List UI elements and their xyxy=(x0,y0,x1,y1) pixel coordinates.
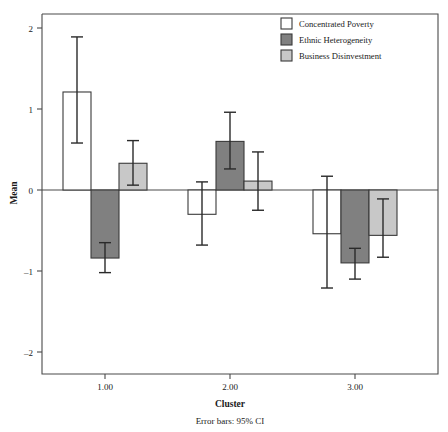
chart-container: 2 1 0 –1 –2 Mean xyxy=(0,0,448,432)
y-tick-label-2: 2 xyxy=(29,24,34,34)
x-tick-label-2: 2.00 xyxy=(222,382,238,392)
x-tick-label-3: 3.00 xyxy=(347,382,363,392)
legend-swatch-ethnic-heterogeneity xyxy=(281,34,292,45)
legend-label-ethnic-heterogeneity: Ethnic Heterogeneity xyxy=(299,35,373,45)
x-axis: 1.00 2.00 3.00 Cluster xyxy=(97,374,363,409)
y-tick-label-1: 1 xyxy=(29,105,34,115)
bar-group-cluster-3 xyxy=(313,176,397,288)
bar-group-cluster-2 xyxy=(188,112,272,245)
bar-group-cluster-1 xyxy=(63,37,147,273)
legend-swatch-business-disinvestment xyxy=(281,50,292,61)
y-tick-label-minus2: –2 xyxy=(23,348,33,358)
y-tick-label-0: 0 xyxy=(29,186,34,196)
error-bars-footnote: Error bars: 95% CI xyxy=(196,416,265,426)
legend: Concentrated Poverty Ethnic Heterogeneit… xyxy=(281,18,382,61)
x-axis-title: Cluster xyxy=(215,399,246,409)
y-axis: 2 1 0 –1 –2 Mean xyxy=(9,24,42,358)
y-axis-title: Mean xyxy=(9,181,19,205)
legend-swatch-concentrated-poverty xyxy=(281,18,292,29)
legend-label-concentrated-poverty: Concentrated Poverty xyxy=(299,19,374,29)
x-tick-label-1: 1.00 xyxy=(97,382,113,392)
y-tick-label-minus1: –1 xyxy=(23,267,33,277)
legend-label-business-disinvestment: Business Disinvestment xyxy=(299,51,382,61)
bar-chart-with-error-bars: 2 1 0 –1 –2 Mean xyxy=(0,0,448,432)
